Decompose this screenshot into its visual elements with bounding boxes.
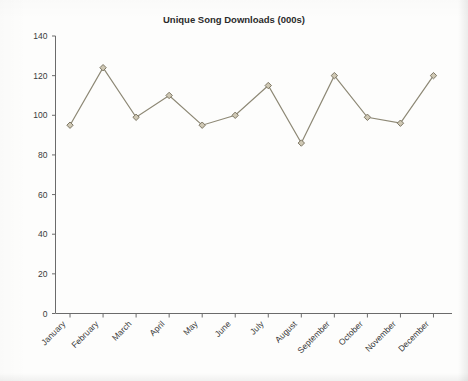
x-tick-label: August <box>273 318 299 344</box>
x-tick-label: May <box>181 318 200 337</box>
data-series <box>67 65 437 147</box>
x-tick-label: March <box>110 319 134 343</box>
line-chart: Unique Song Downloads (000s) 02040608010… <box>0 0 468 381</box>
data-point-marker <box>67 122 73 128</box>
x-tick-label: April <box>147 319 166 338</box>
y-tick-label: 80 <box>38 150 48 160</box>
y-tick-label: 20 <box>38 269 48 279</box>
y-tick-label: 60 <box>38 190 48 200</box>
x-tick-label: October <box>336 319 365 348</box>
y-tick-label: 120 <box>33 71 47 81</box>
chart-title: Unique Song Downloads (000s) <box>163 14 305 25</box>
x-tick-label: July <box>248 318 266 336</box>
x-tick-label: December <box>396 319 431 354</box>
x-tick-label: January <box>39 318 68 347</box>
y-tick-label: 100 <box>33 110 47 120</box>
y-tick-label: 0 <box>43 309 48 319</box>
data-point-marker <box>298 140 304 146</box>
x-tick-label: February <box>69 318 101 350</box>
y-tick-label: 140 <box>33 31 47 41</box>
x-axis: JanuaryFebruaryMarchAprilMayJuneJulyAugu… <box>39 314 452 356</box>
series-markers <box>67 65 437 147</box>
x-tick-labels: JanuaryFebruaryMarchAprilMayJuneJulyAugu… <box>39 318 431 355</box>
y-axis: 020406080100120140 <box>33 31 55 319</box>
x-tick-label: September <box>295 319 332 356</box>
x-tick-marks <box>70 314 433 318</box>
y-tick-marks <box>52 36 56 314</box>
y-tick-label: 40 <box>38 229 48 239</box>
x-tick-label: June <box>213 319 233 339</box>
series-line-path <box>70 68 433 143</box>
data-point-marker <box>133 114 139 120</box>
y-tick-labels: 020406080100120140 <box>33 31 47 319</box>
data-point-marker <box>100 65 106 71</box>
chart-container: Unique Song Downloads (000s) 02040608010… <box>0 0 468 381</box>
x-tick-label: November <box>363 319 398 354</box>
